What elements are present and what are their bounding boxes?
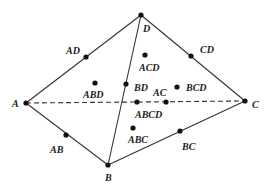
edge-BC (108, 101, 245, 165)
vertex-point-d (138, 12, 143, 17)
edge-midpoint-point-bd (123, 81, 128, 86)
vertex-point-a (23, 100, 28, 105)
edge-midpoint-label-cd: CD (200, 44, 214, 55)
face-point-abd (92, 80, 97, 85)
edge-midpoint-point-cd (188, 53, 193, 58)
vertex-point-c (242, 98, 247, 103)
vertex-label-a: A (11, 98, 19, 109)
face-point-abc (130, 125, 135, 130)
face-label-acd: ACD (138, 62, 160, 73)
face-point-bcd (174, 84, 179, 89)
face-point-acd (142, 52, 147, 57)
edge-midpoint-point-ac (163, 99, 168, 104)
edge-midpoint-point-ad (83, 54, 88, 59)
edge-midpoint-point-bc (177, 128, 182, 133)
vertex-label-c: C (252, 99, 259, 110)
face-label-abd: ABD (82, 89, 104, 100)
edge-midpoint-label-bc: BC (181, 141, 196, 152)
edge-midpoint-label-ab: AB (49, 144, 64, 155)
edge-midpoint-point-ab (63, 132, 68, 137)
center-label-abcd: ABCD (134, 109, 162, 120)
edge-midpoint-label-ac: AC (152, 87, 167, 98)
vertex-point-b (105, 162, 110, 167)
tetrahedron-diagram: ABCDADCDBDACABBCABDACDBCDABCABCD (0, 0, 273, 187)
edge-midpoint-label-bd: BD (133, 82, 148, 93)
center-point-abcd (134, 99, 139, 104)
edge-midpoint-label-ad: AD (65, 45, 80, 56)
vertex-label-b: B (104, 172, 112, 183)
face-label-abc: ABC (127, 134, 148, 145)
vertex-label-d: D (142, 23, 150, 34)
face-label-bcd: BCD (185, 82, 207, 93)
